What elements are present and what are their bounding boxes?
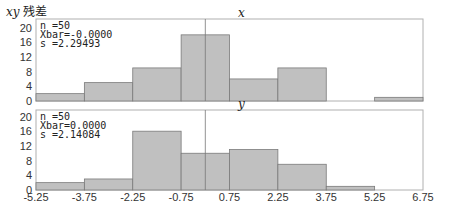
histogram-bar bbox=[84, 179, 132, 190]
stat-s: s =2.29493 bbox=[40, 38, 100, 49]
histogram-bar bbox=[278, 68, 326, 101]
histogram-bar bbox=[278, 164, 326, 190]
histogram-bar bbox=[230, 79, 278, 101]
histogram-bar bbox=[326, 186, 374, 190]
panel-title: y bbox=[237, 97, 245, 111]
histogram-bar bbox=[36, 94, 84, 101]
histogram-bar bbox=[133, 131, 181, 190]
y-tick-label: 4 bbox=[26, 169, 32, 181]
histogram-chart: 201612840xn =50Xbar=-0.0000s =2.29493201… bbox=[0, 0, 452, 211]
y-tick-label: 20 bbox=[20, 22, 32, 34]
stat-s: s =2.14084 bbox=[40, 129, 100, 140]
histogram-bar bbox=[133, 68, 181, 101]
x-tick-label: -5.25 bbox=[23, 191, 48, 203]
x-tick-label: 0.75 bbox=[219, 191, 240, 203]
y-tick-label: 16 bbox=[20, 125, 32, 137]
y-tick-label: 16 bbox=[20, 36, 32, 48]
y-tick-label: 12 bbox=[20, 51, 32, 63]
x-tick-label: 5.25 bbox=[364, 191, 385, 203]
histogram-bar bbox=[230, 150, 278, 190]
panel-title: x bbox=[238, 6, 245, 20]
y-tick-label: 8 bbox=[26, 155, 32, 167]
y-tick-label: 20 bbox=[20, 111, 32, 123]
x-tick-label: -0.75 bbox=[169, 191, 194, 203]
y-tick-label: 12 bbox=[20, 140, 32, 152]
y-tick-label: 8 bbox=[26, 66, 32, 78]
x-tick-label: 6.75 bbox=[412, 191, 433, 203]
x-tick-label: -3.75 bbox=[72, 191, 97, 203]
y-tick-label: 0 bbox=[26, 95, 32, 107]
y-tick-label: 4 bbox=[26, 80, 32, 92]
x-tick-label: -2.25 bbox=[120, 191, 145, 203]
histogram-bar bbox=[84, 83, 132, 101]
x-tick-label: 2.25 bbox=[267, 191, 288, 203]
x-tick-label: 3.75 bbox=[316, 191, 337, 203]
histogram-bar bbox=[375, 97, 423, 101]
histogram-bar bbox=[36, 183, 84, 190]
